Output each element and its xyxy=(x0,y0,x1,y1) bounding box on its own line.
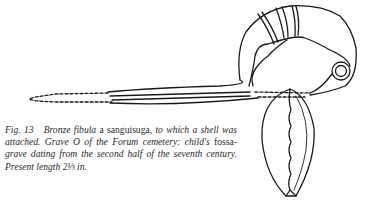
dashed-pin-outline xyxy=(30,93,112,102)
shell-seam xyxy=(286,89,291,196)
bow-inner xyxy=(249,37,350,86)
figure-caption: Fig. 13 Bronze fibula a sanguisuga, to w… xyxy=(5,124,237,173)
figure-label: Fig. 13 xyxy=(5,124,34,135)
caption-text-6: grave dating from the second half of the… xyxy=(5,148,237,171)
spring-coil xyxy=(332,62,350,80)
caption-text-1: Bronze xyxy=(44,124,74,135)
catch-plate xyxy=(108,80,243,92)
caption-text-3: a sanguisuga, xyxy=(96,124,155,135)
caption-text-2: fibula xyxy=(74,124,96,135)
fibula-drawing xyxy=(0,0,368,208)
caption-text-5: fossa- xyxy=(214,136,237,147)
